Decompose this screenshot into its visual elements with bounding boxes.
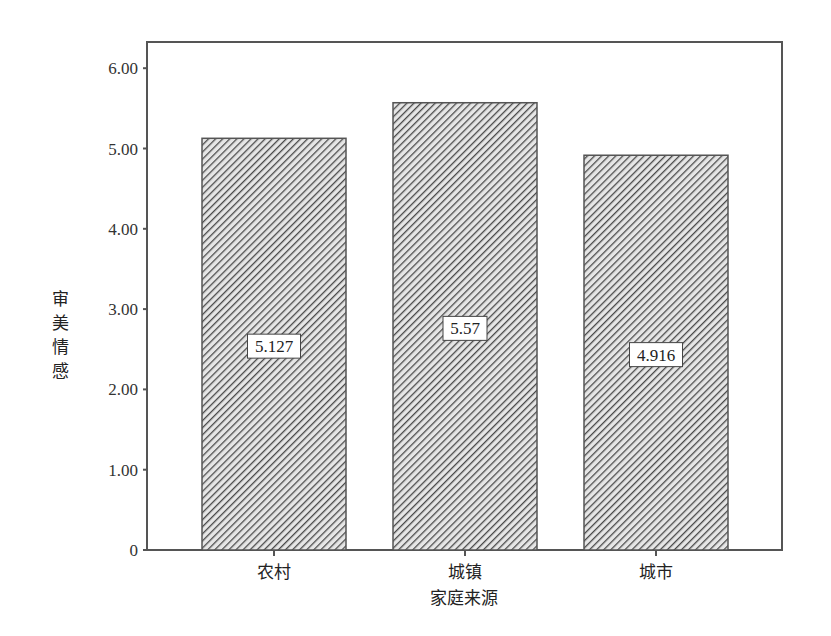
x-category-label: 城市 xyxy=(639,562,673,582)
y-tick-label: 2.00 xyxy=(108,380,138,399)
value-label: 5.57 xyxy=(450,319,480,338)
y-tick-label: 1.00 xyxy=(108,461,138,480)
x-axis: 农村城镇城市 xyxy=(257,550,673,582)
y-tick-label: 3.00 xyxy=(108,300,138,319)
y-axis-title: 审美情感 xyxy=(52,289,69,381)
x-category-label: 农村 xyxy=(257,562,291,582)
x-axis-title: 家庭来源 xyxy=(430,588,498,608)
value-label: 4.916 xyxy=(637,346,675,365)
value-label: 5.127 xyxy=(255,337,294,356)
y-tick-label: 0 xyxy=(130,541,139,560)
bars: 5.1275.574.916 xyxy=(202,103,728,550)
y-tick-label: 5.00 xyxy=(108,140,138,159)
bar-chart: 5.1275.574.916 01.002.003.004.005.006.00… xyxy=(0,0,831,636)
x-category-label: 城镇 xyxy=(448,562,482,582)
y-tick-label: 6.00 xyxy=(108,59,138,78)
y-axis: 01.002.003.004.005.006.00 xyxy=(108,59,147,560)
y-tick-label: 4.00 xyxy=(108,220,138,239)
